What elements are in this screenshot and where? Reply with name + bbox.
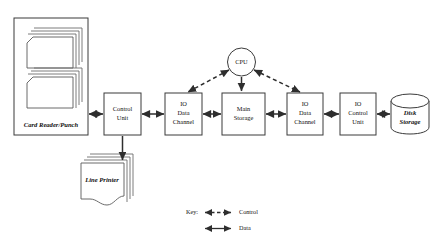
main-storage-label-line1: Main — [237, 105, 251, 112]
node-io-data-channel-right: IO Data Channel — [287, 93, 323, 135]
legend-label-data: Data — [239, 224, 251, 231]
io-data-channel-right-label-line2: Data — [299, 109, 311, 116]
control-unit-left-label-line2: Unit — [117, 114, 129, 121]
card-stack-upper-front — [27, 37, 73, 68]
node-control-unit-left: Control Unit — [104, 93, 141, 135]
cpu-label: CPU — [235, 58, 248, 65]
disk-storage-label-line2: Storage — [400, 118, 421, 125]
arrow-control-cpu-iodatachannel-right — [254, 70, 300, 92]
legend: Key: Control Data — [186, 208, 258, 231]
card-stack-lower-front — [27, 77, 73, 108]
node-line-printer: Line Printer — [81, 154, 133, 205]
io-control-unit-label-line1: IO — [355, 100, 362, 107]
io-data-channel-right-label-line1: IO — [302, 100, 309, 107]
disk-storage-label-line1: Disk — [403, 109, 417, 116]
disk-storage-top-ellipse — [391, 94, 429, 108]
io-control-unit-label-line2: Control — [348, 109, 368, 116]
main-storage-label-line2: Storage — [234, 114, 254, 121]
card-reader-label: Card Reader/Punch — [24, 121, 79, 128]
diagram-svg: Card Reader/Punch Line Printer Control U… — [0, 0, 441, 250]
control-unit-left-label-line1: Control — [113, 105, 133, 112]
io-data-channel-right-label-line3: Channel — [294, 118, 316, 125]
legend-label-control: Control — [239, 208, 258, 215]
io-data-channel-left-label-line3: Channel — [173, 118, 195, 125]
node-card-reader: Card Reader/Punch — [14, 18, 88, 135]
node-main-storage: Main Storage — [222, 93, 265, 135]
node-io-data-channel-left: IO Data Channel — [165, 93, 202, 135]
io-control-unit-label-line3: Unit — [352, 118, 364, 125]
node-cpu: CPU — [228, 48, 256, 76]
io-data-channel-left-label-line2: Data — [177, 109, 189, 116]
node-io-control-unit: IO Control Unit — [340, 93, 376, 135]
line-printer-label: Line Printer — [84, 176, 119, 183]
block-diagram-canvas: Card Reader/Punch Line Printer Control U… — [0, 0, 441, 250]
legend-title: Key: — [186, 208, 198, 215]
card-reader-enclosure — [14, 18, 88, 135]
io-data-channel-left-label-line1: IO — [180, 100, 187, 107]
arrow-control-cpu-iodatachannel-left — [188, 70, 229, 92]
line-printer-front-page — [81, 163, 124, 205]
node-disk-storage: Disk Storage — [391, 94, 429, 134]
